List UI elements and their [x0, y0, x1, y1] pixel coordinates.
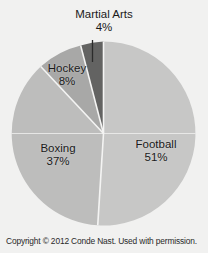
pie-label-football: Football 51%	[124, 138, 188, 164]
pie-label-boxing-name: Boxing	[26, 142, 90, 155]
pie-label-martial-arts-name: Martial Arts	[52, 8, 156, 21]
pie-label-hockey-value: 8%	[36, 75, 98, 88]
pie-label-boxing-value: 37%	[26, 155, 90, 168]
pie-label-boxing: Boxing 37%	[26, 142, 90, 168]
pie-label-martial-arts-value: 4%	[52, 21, 156, 34]
pie-label-martial-arts: Martial Arts 4%	[52, 8, 156, 34]
pie-chart-figure: Martial Arts 4% Hockey 8% Boxing 37% Foo…	[0, 0, 208, 253]
pie-chart-svg	[0, 0, 208, 253]
pie-label-football-name: Football	[124, 138, 188, 151]
pie-label-hockey: Hockey 8%	[36, 62, 98, 88]
pie-label-football-value: 51%	[124, 151, 188, 164]
pie-label-hockey-name: Hockey	[36, 62, 98, 75]
copyright-notice: Copyright © 2012 Conde Nast. Used with p…	[6, 236, 206, 246]
